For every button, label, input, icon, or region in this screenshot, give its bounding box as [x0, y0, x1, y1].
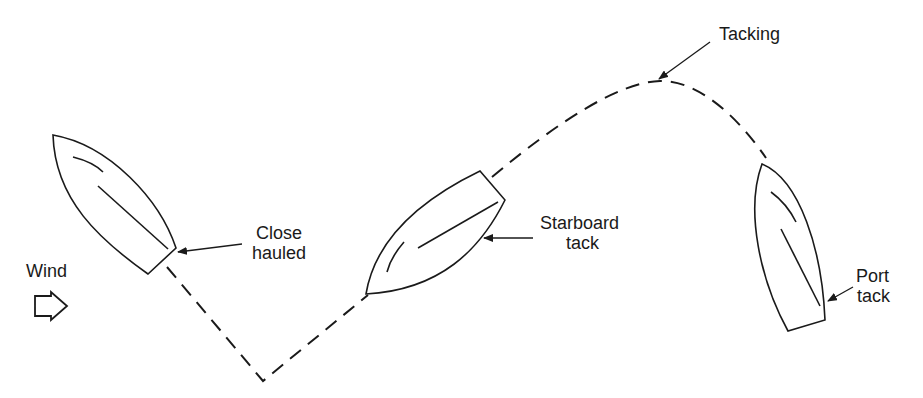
course-path-tacking: [492, 81, 766, 177]
arrow-close-hauled: [178, 244, 242, 252]
boat-port-tack: [755, 164, 825, 331]
label-port-line2: tack: [857, 286, 890, 306]
course-path: [167, 267, 368, 381]
label-tacking: Tacking: [719, 24, 780, 44]
label-port-line1: Port: [856, 266, 889, 286]
label-starboard-line2: tack: [566, 233, 599, 253]
sailing-diagram: [0, 0, 923, 398]
arrow-tacking: [659, 42, 710, 79]
boat-starboard-tack: [366, 171, 505, 294]
label-starboard-line1: Starboard: [540, 213, 619, 233]
boat-close-hauled: [53, 135, 176, 274]
label-wind: Wind: [26, 261, 67, 281]
label-close-hauled-line1: Close: [256, 223, 302, 243]
label-close-hauled-line2: hauled: [252, 243, 306, 263]
arrow-port-tack: [828, 287, 853, 301]
wind-arrow-icon: [35, 292, 67, 320]
